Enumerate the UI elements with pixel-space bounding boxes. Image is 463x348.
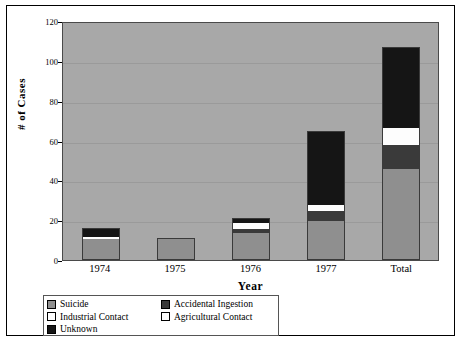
y-axis-tick-label: 80 [50, 98, 59, 106]
legend-swatch-icon [47, 300, 56, 309]
legend-item-label: Industrial Contact [60, 312, 128, 322]
x-axis-tick-label: 1975 [137, 263, 212, 274]
y-axis-tick-mark [58, 142, 62, 143]
chart-frame: # of Cases 020406080100120 1974197519761… [6, 5, 455, 336]
y-axis-label: # of Cases [15, 78, 31, 130]
y-axis-tick-label: 100 [45, 58, 58, 66]
legend-item-label: Accidental Ingestion [174, 299, 253, 309]
y-axis-tick-mark [58, 62, 62, 63]
y-axis-tick-label: 120 [45, 18, 58, 26]
legend-item-label: Agricultural Contact [174, 312, 252, 322]
x-axis-tick-label: 1977 [288, 263, 363, 274]
x-axis-tick-labels: 1974197519761977Total [62, 263, 439, 274]
y-axis-tick-mark [58, 102, 62, 103]
x-axis-tick-label: 1974 [62, 263, 137, 274]
plot-area-wrapper: 020406080100120 1974197519761977Total Ye… [62, 22, 439, 262]
legend-item[interactable]: Industrial Contact [47, 311, 161, 324]
y-axis-tick-mark [58, 22, 62, 23]
legend-swatch-icon [161, 300, 170, 309]
x-axis-label: Year [62, 280, 439, 292]
legend-swatch-icon [161, 312, 170, 321]
y-axis-tick-label: 20 [50, 217, 59, 225]
legend-item[interactable]: Unknown [47, 323, 275, 336]
y-axis-tick-label: 40 [50, 177, 59, 185]
legend-item[interactable]: Agricultural Contact [161, 311, 275, 324]
y-axis: 020406080100120 [62, 22, 439, 261]
y-axis-tick-mark [58, 181, 62, 182]
legend-grid: SuicideAccidental IngestionIndustrial Co… [47, 298, 275, 336]
y-axis-tick-mark [58, 261, 62, 262]
legend-item[interactable]: Suicide [47, 298, 161, 311]
chart-legend: SuicideAccidental IngestionIndustrial Co… [43, 295, 279, 336]
x-axis-tick-label: Total [364, 263, 439, 274]
legend-item-label: Unknown [60, 324, 97, 334]
y-axis-tick-mark [58, 221, 62, 222]
legend-swatch-icon [47, 312, 56, 321]
y-axis-tick-label: 60 [50, 138, 59, 146]
legend-item[interactable]: Accidental Ingestion [161, 298, 275, 311]
legend-swatch-icon [47, 325, 56, 334]
legend-item-label: Suicide [60, 299, 89, 309]
x-axis-tick-label: 1976 [213, 263, 288, 274]
